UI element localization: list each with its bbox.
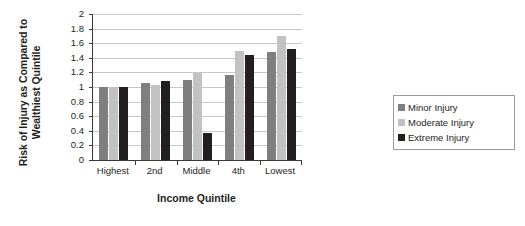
bar <box>193 73 202 160</box>
bar-groups <box>93 14 302 160</box>
y-axis-tick-label: 0.2 <box>56 141 84 151</box>
bar <box>203 133 212 160</box>
bar <box>161 81 170 160</box>
bar-group <box>260 14 302 160</box>
x-axis-tick-label: Middle <box>176 165 218 176</box>
y-axis-tick-label: 0 <box>56 155 84 165</box>
legend-item[interactable]: Moderate Injury <box>398 115 511 130</box>
x-axis-tick-label: Highest <box>92 165 134 176</box>
legend-label: Extreme Injury <box>408 133 469 143</box>
y-axis-tick-label: 0.8 <box>56 97 84 107</box>
bar <box>183 80 192 160</box>
x-axis-tickmark <box>301 161 302 165</box>
bar <box>287 49 296 160</box>
legend-swatch-icon <box>398 119 405 126</box>
y-axis-title: Risk of Injury as Compared to Wealthiest… <box>4 8 56 176</box>
bar-group <box>135 14 177 160</box>
bar <box>277 36 286 160</box>
legend-item[interactable]: Extreme Injury <box>398 130 511 145</box>
x-axis-tick-label: 2nd <box>134 165 176 176</box>
bar <box>99 87 108 160</box>
y-axis-tick-labels: 00.20.40.60.811.21.41.61.82 <box>56 14 84 160</box>
bar-group <box>218 14 260 160</box>
x-axis-tick-labels: Highest2ndMiddle4thLowest <box>92 165 301 176</box>
legend-label: Moderate Injury <box>408 118 474 128</box>
bar <box>235 51 244 160</box>
y-axis-tick-label: 1 <box>56 82 84 92</box>
y-axis-tick-label: 0.6 <box>56 111 84 121</box>
y-axis-tick-label: 0.4 <box>56 126 84 136</box>
bar-chart: Risk of Injury as Compared to Wealthiest… <box>0 0 525 226</box>
y-axis-title-line-2: Wealthiest Quintile <box>30 18 43 165</box>
legend-label: Minor Injury <box>408 103 458 113</box>
bar <box>141 83 150 160</box>
y-axis-tick-label: 1.2 <box>56 68 84 78</box>
bar <box>225 75 234 160</box>
bar <box>151 85 160 160</box>
x-axis-title: Income Quintile <box>92 192 301 204</box>
x-axis-tick-label: Lowest <box>259 165 301 176</box>
bar-group <box>93 14 135 160</box>
legend-swatch-icon <box>398 134 405 141</box>
y-axis-tick-label: 1.4 <box>56 53 84 63</box>
plot-area <box>92 14 302 161</box>
y-axis-title-line-1: Risk of Injury as Compared to <box>18 18 31 165</box>
y-axis-tick-label: 2 <box>56 9 84 19</box>
legend-swatch-icon <box>398 104 405 111</box>
chart-legend: Minor InjuryModerate InjuryExtreme Injur… <box>393 95 515 150</box>
legend-item[interactable]: Minor Injury <box>398 100 511 115</box>
y-axis-tick-label: 1.6 <box>56 38 84 48</box>
bar <box>109 87 118 160</box>
bar <box>119 87 128 160</box>
bar <box>245 55 254 160</box>
x-axis-tick-label: 4th <box>217 165 259 176</box>
y-axis-tickmark <box>89 160 93 161</box>
bar <box>267 52 276 160</box>
y-axis-tick-label: 1.8 <box>56 24 84 34</box>
bar-group <box>177 14 219 160</box>
